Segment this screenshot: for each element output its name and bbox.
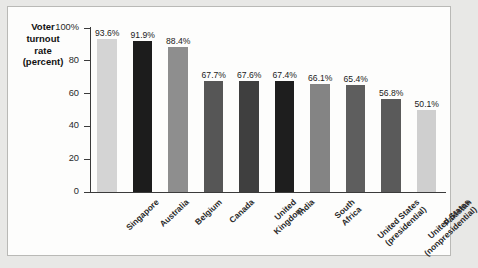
x-axis-category-label-line: Australia	[158, 197, 191, 229]
bar-value-label: 88.4%	[166, 36, 190, 46]
y-axis-title-line-2: turnout	[10, 33, 76, 45]
bar-value-label: 56.8%	[379, 88, 403, 98]
x-axis-line	[90, 192, 446, 193]
plot-area: 93.6%91.9%88.4%67.7%67.6%67.4%66.1%65.4%…	[90, 28, 445, 192]
bar	[275, 81, 295, 192]
bar-value-label: 67.7%	[202, 70, 226, 80]
x-axis-category-label-line: Belgium	[193, 197, 224, 227]
x-axis-category-label: India	[296, 197, 317, 218]
x-axis-category-label: UnitedKingdom	[265, 197, 305, 236]
x-axis-category-label: Canada	[227, 197, 256, 225]
chart-figure: Voter turnout rate (percent) 100%8060402…	[7, 6, 451, 256]
bar-value-label: 93.6%	[95, 28, 119, 38]
bar	[97, 39, 117, 193]
x-axis-category-label-line: Canada	[227, 197, 256, 225]
bar	[381, 99, 401, 192]
y-axis-title-line-3: rate	[10, 45, 76, 57]
bar-value-label: 50.1%	[415, 99, 439, 109]
bar-value-label: 67.6%	[237, 70, 261, 80]
x-axis-category-label-line: India	[296, 197, 317, 218]
x-axis-category-label: Australia	[158, 197, 191, 229]
bar	[239, 81, 259, 192]
x-axis-category-label: Belgium	[193, 197, 224, 227]
y-axis-tick-label: 20	[69, 153, 79, 163]
y-axis-tick-label: 100%	[55, 22, 79, 32]
x-axis-category-label: Singapore	[124, 197, 161, 232]
bar	[310, 84, 330, 192]
y-axis-tick-label: 0	[74, 186, 79, 196]
bar	[204, 81, 224, 192]
y-axis-tick-label: 60	[69, 88, 79, 98]
x-axis-category-label: SouthAfrica	[332, 197, 363, 228]
bar	[168, 47, 188, 192]
bar-value-label: 67.4%	[273, 70, 297, 80]
bar	[417, 110, 437, 192]
bar-value-label: 91.9%	[131, 30, 155, 40]
bar-value-label: 66.1%	[308, 73, 332, 83]
bar-value-label: 65.4%	[344, 74, 368, 84]
y-axis-tick-label: 80	[69, 55, 79, 65]
x-axis-category-label-line: Singapore	[124, 197, 161, 232]
y-axis-title-line-4: (percent)	[10, 56, 76, 68]
y-axis-tick-label: 40	[69, 120, 79, 130]
bar	[133, 41, 153, 192]
bar	[346, 85, 366, 192]
